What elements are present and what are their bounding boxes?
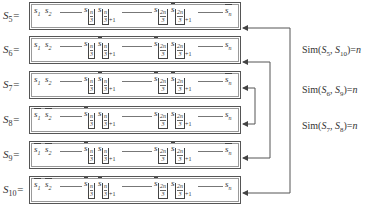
sim-s6-s9: Sim(S6, S9)=n: [302, 84, 357, 98]
arrow-s7-s8: [243, 88, 255, 124]
arrow-s5-s10: [243, 28, 290, 193]
pairing-arrows: [0, 0, 373, 216]
arrow-s6-s9: [243, 62, 270, 158]
sim-s5-s10: Sim(S5, S10)=n: [302, 44, 361, 58]
sim-s7-s8: Sim(S7, S8)=n: [302, 120, 357, 134]
